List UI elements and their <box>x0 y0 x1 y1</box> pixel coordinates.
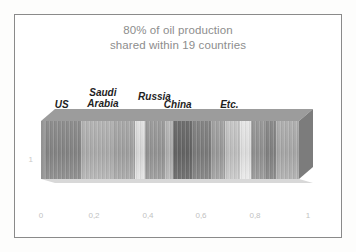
stacked-bar-3d <box>41 109 313 181</box>
x-axis-tick: 0,4 <box>136 211 160 220</box>
x-axis-tick: 0,8 <box>243 211 267 220</box>
bar-segment <box>135 121 145 179</box>
bar-segment <box>265 121 275 179</box>
y-axis-tick-1: 1 <box>21 155 33 164</box>
bar-segment <box>192 121 211 179</box>
bar-segment <box>225 121 239 179</box>
x-axis-tick: 0,6 <box>189 211 213 220</box>
bar-segment <box>145 121 164 179</box>
bar-segment <box>41 121 81 179</box>
x-axis-tick: 0,2 <box>82 211 106 220</box>
bar-left-edge-shadow <box>41 121 45 179</box>
x-axis-tick: 0 <box>29 211 53 220</box>
bar-segment <box>240 121 252 179</box>
bar-segment <box>113 121 135 179</box>
bar-segment <box>276 121 299 179</box>
bar-bottom-shadow <box>41 179 313 183</box>
bar-segment <box>81 121 113 179</box>
category-label-saudi-arabia: Saudi Arabia <box>77 87 129 109</box>
bar-front-face <box>41 121 299 179</box>
bar-top-face <box>41 109 313 121</box>
chart-frame: 80% of oil production shared within 19 c… <box>14 14 342 238</box>
bar-segment <box>173 121 192 179</box>
bar-right-depth-face <box>299 109 313 179</box>
x-axis-tick: 1 <box>296 211 320 220</box>
bar-segment <box>211 121 225 179</box>
bar-segment <box>251 121 265 179</box>
plot-area: US Saudi Arabia Russia China Etc. 00,20,… <box>15 15 343 239</box>
bar-segment <box>165 121 173 179</box>
